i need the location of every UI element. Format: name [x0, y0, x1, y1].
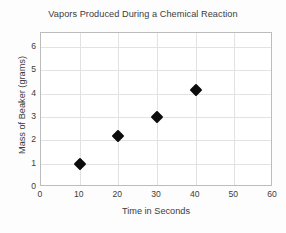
- gridline-x-20: [118, 33, 119, 185]
- x-tick-label: 30: [151, 190, 161, 199]
- x-tick-label: 20: [113, 190, 123, 199]
- chart-figure: Vapors Produced During a Chemical Reacti…: [0, 0, 286, 233]
- gridline-y-6: [41, 47, 271, 48]
- plot-area: [40, 32, 272, 186]
- x-tick-label: 50: [229, 190, 239, 199]
- chart-title: Vapors Produced During a Chemical Reacti…: [0, 9, 286, 19]
- y-axis-title: Mass of Beaker (grams): [17, 25, 27, 185]
- gridline-y-4: [41, 94, 271, 95]
- gridline-x-50: [234, 33, 235, 185]
- gridline-x-30: [157, 33, 158, 185]
- data-point: [73, 157, 86, 170]
- gridline-y-2: [41, 140, 271, 141]
- gridline-y-5: [41, 70, 271, 71]
- x-tick-label: 0: [38, 190, 43, 199]
- x-axis-tick-labels: 0102030405060: [40, 190, 272, 202]
- data-point: [151, 111, 164, 124]
- x-tick-label: 60: [267, 190, 277, 199]
- x-tick-label: 10: [74, 190, 84, 199]
- gridline-x-40: [196, 33, 197, 185]
- x-axis-title: Time in Seconds: [40, 206, 272, 216]
- x-tick-label: 40: [190, 190, 200, 199]
